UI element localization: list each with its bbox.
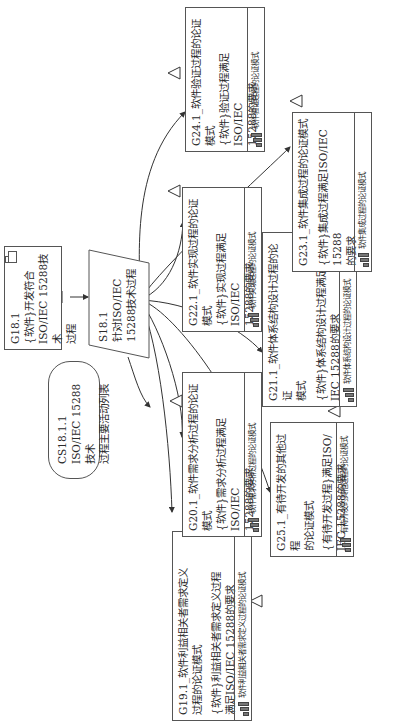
goal-body: {软件}利益相关者需求定义过程 xyxy=(209,537,223,715)
module-icon xyxy=(8,251,17,263)
goal-title: 过程的论证模式 xyxy=(190,537,204,715)
context-line: CS18.1.1 xyxy=(55,376,69,464)
pattern-footer: 软件利益相关者需求定义过程的论证模式 xyxy=(234,532,251,720)
bar-chart-icon xyxy=(238,702,249,716)
goal-title: G23.1_软件集成过程的论证模式 xyxy=(296,118,310,266)
goal-title: G25.1_有待开发的其他过程 xyxy=(274,428,302,551)
goal-g22-1: G22.1_软件实现过程的论证 模式 {软件}实现过程满足ISO/IEC 152… xyxy=(182,187,262,332)
goal-body: {软件}实现过程满足ISO/IEC xyxy=(214,193,242,326)
pattern-footer: 软件需求分析过程的论证模式 xyxy=(244,373,261,536)
goal-g25-1: G25.1_有待开发的其他过程 的论证模式 {有待开发过程}满足ISO/ IEC… xyxy=(270,422,354,557)
goal-title: 模式 xyxy=(200,378,214,531)
goal-line: 过程 xyxy=(64,252,78,344)
goal-body: {有待开发过程}满足ISO/ xyxy=(320,428,334,551)
goal-body: {软件}验证过程满足ISO/IEC xyxy=(217,13,245,146)
pattern-footer: 软件验证过程的论证模式 xyxy=(247,8,264,151)
bar-chart-icon xyxy=(251,133,262,147)
bar-chart-icon xyxy=(358,253,369,267)
goal-title: G20.1_软件需求分析过程的论证 xyxy=(186,378,200,531)
bar-chart-icon xyxy=(248,313,259,327)
strategy-line: 15288技术过程 xyxy=(124,266,138,342)
goal-title: 模式 xyxy=(200,193,214,326)
goal-g24-1: G24.1_软件验证过程的论证 模式 {软件}验证过程满足ISO/IEC 152… xyxy=(185,7,265,152)
pattern-footer: 软件实现过程的论证模式 xyxy=(244,188,261,331)
context-line: 过程主要活动列表 xyxy=(97,376,111,464)
bar-chart-icon xyxy=(248,518,259,532)
goal-g23-1: G23.1_软件集成过程的论证模式 {软件}集成过程满足ISO/IEC 1528… xyxy=(292,112,372,272)
goal-g19-1: G19.1_软件利益相关者需求定义 过程的论证模式 {软件}利益相关者需求定义过… xyxy=(172,531,252,721)
goal-title: G22.1_软件实现过程的论证 xyxy=(186,193,200,326)
goal-g20-1: G20.1_软件需求分析过程的论证 模式 {软件}需求分析过程满足ISO/IEC… xyxy=(182,372,262,537)
strategy-line: 针对ISO/IEC xyxy=(110,266,124,342)
goal-line: G18.1 xyxy=(8,252,22,344)
gsn-diagram: G18.1 {软件}开发符合 ISO/IEC 15288技术 过程 S18.1 … xyxy=(0,0,406,727)
goal-line: ISO/IEC 15288技术 xyxy=(36,252,64,344)
goal-title: G21.1_软件体系结构设计过程的论证 xyxy=(266,238,294,401)
pattern-footer: 软件集成过程的论证模式 xyxy=(354,113,371,271)
strategy-s18-1: S18.1 针对ISO/IEC 15288技术过程 xyxy=(88,249,150,359)
bar-chart-icon xyxy=(343,388,354,402)
context-cs18-1-1: CS18.1.1 ISO/IEC 15288技术 过程主要活动列表 xyxy=(48,361,100,479)
goal-body: {软件}需求分析过程满足ISO/IEC xyxy=(214,378,242,531)
strategy-line: S18.1 xyxy=(96,266,110,342)
pattern-footer: 有待开发的其他过程的论证模式 xyxy=(336,423,353,556)
context-line: ISO/IEC 15288技术 xyxy=(69,376,97,464)
goal-g18-1: G18.1 {软件}开发符合 ISO/IEC 15288技术 过程 xyxy=(4,246,62,350)
goal-title: G19.1_软件利益相关者需求定义 xyxy=(176,537,190,715)
bar-chart-icon xyxy=(340,538,351,552)
goal-line: {软件}开发符合 xyxy=(22,252,36,344)
goal-title: 的论证模式 xyxy=(302,428,316,551)
goal-title: G24.1_软件验证过程的论证 xyxy=(189,13,203,146)
goal-body: {软件}集成过程满足ISO/IEC 15288 xyxy=(316,118,344,266)
goal-title: 模式 xyxy=(203,13,217,146)
